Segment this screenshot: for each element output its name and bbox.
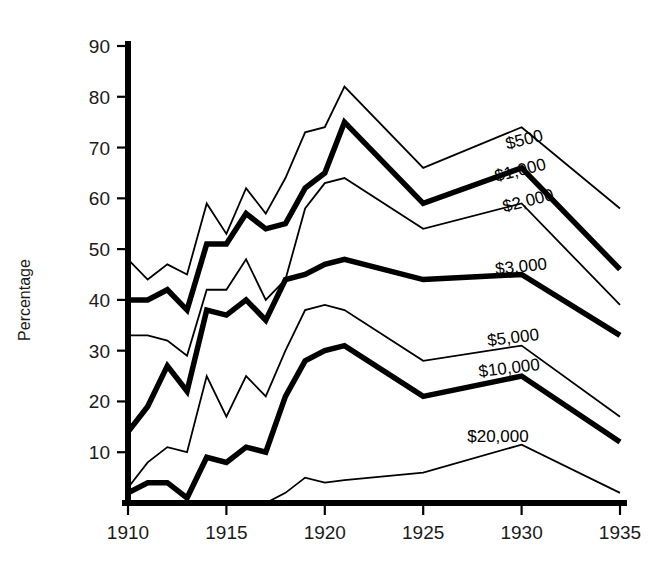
series-label-1000: $1,000 — [493, 155, 548, 186]
y-axis-ticks: 102030405060708090 — [89, 36, 127, 463]
x-tick-label: 1910 — [107, 522, 149, 543]
series-label-3000: $3,000 — [494, 254, 548, 278]
series-line-3000 — [128, 259, 620, 432]
x-axis-ticks: 191019151920192519301935 — [107, 505, 641, 543]
y-tick-label: 90 — [89, 36, 110, 57]
y-tick-label: 70 — [89, 138, 110, 159]
x-tick-label: 1935 — [599, 522, 641, 543]
y-tick-label: 20 — [89, 391, 110, 412]
series-line-1000 — [128, 122, 620, 310]
series-layer — [128, 87, 620, 503]
y-tick-label: 50 — [89, 239, 110, 260]
series-label-20000: $20,000 — [467, 427, 528, 446]
y-tick-label: 40 — [89, 290, 110, 311]
x-tick-label: 1915 — [205, 522, 247, 543]
series-line-500 — [128, 87, 620, 280]
series-label-2000: $2,000 — [501, 185, 556, 216]
y-tick-label: 60 — [89, 188, 110, 209]
chart-container: 102030405060708090 191019151920192519301… — [0, 0, 655, 564]
x-tick-label: 1920 — [304, 522, 346, 543]
x-tick-label: 1925 — [402, 522, 444, 543]
y-tick-label: 30 — [89, 341, 110, 362]
series-line-10000 — [128, 346, 620, 498]
series-line-20000 — [128, 445, 620, 503]
x-tick-label: 1930 — [500, 522, 542, 543]
y-tick-label: 10 — [89, 442, 110, 463]
y-tick-label: 80 — [89, 87, 110, 108]
series-label-5000: $5,000 — [486, 325, 540, 350]
series-label-10000: $10,000 — [477, 355, 540, 381]
y-axis-title: Percentage — [16, 259, 33, 341]
line-chart: 102030405060708090 191019151920192519301… — [0, 0, 655, 564]
series-label-500: $500 — [504, 126, 545, 154]
